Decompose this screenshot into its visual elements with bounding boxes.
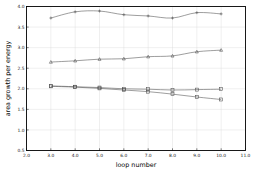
data-point-marker (171, 17, 174, 20)
y-tick-labels: 0.51.01.52.02.53.03.54.0 (18, 4, 25, 153)
x-tick-label: 2.0 (23, 153, 30, 158)
y-tick-label: 2.0 (18, 86, 25, 91)
y-axis-title: area growth per energy (4, 41, 12, 117)
x-tick-label: 7.0 (145, 153, 152, 158)
x-tick-labels: 2.03.04.05.06.07.08.09.010.011.0 (23, 153, 251, 158)
x-tick-label: 3.0 (47, 153, 54, 158)
y-tick-label: 3.0 (18, 45, 25, 50)
y-tick-label: 1.5 (18, 107, 25, 112)
data-point-marker (122, 13, 125, 16)
data-point-marker (98, 10, 101, 13)
data-point-marker (49, 17, 52, 20)
chart-canvas: 0.51.01.52.02.53.03.54.0 2.03.04.05.06.0… (0, 0, 255, 178)
x-tick-label: 6.0 (120, 153, 127, 158)
x-tick-label: 10.0 (216, 153, 226, 158)
chart-figure: 0.51.01.52.02.53.03.54.0 2.03.04.05.06.0… (0, 0, 255, 178)
y-gridlines (27, 27, 246, 130)
x-gridlines (51, 7, 221, 151)
x-tick-label: 5.0 (96, 153, 103, 158)
x-axis-title: loop number (116, 161, 157, 169)
x-tick-label: 4.0 (72, 153, 79, 158)
x-tick-label: 9.0 (193, 153, 200, 158)
x-tick-label: 8.0 (169, 153, 176, 158)
y-tick-label: 4.0 (18, 4, 25, 9)
x-tick-label: 11.0 (241, 153, 251, 158)
y-tick-label: 1.0 (18, 128, 25, 133)
y-tick-label: 3.5 (18, 25, 25, 30)
plot-frame (27, 7, 246, 151)
y-tick-label: 2.5 (18, 66, 25, 71)
data-point-marker (74, 10, 77, 13)
data-point-marker (220, 12, 223, 15)
data-point-marker (195, 11, 198, 14)
data-point-marker (147, 14, 150, 17)
